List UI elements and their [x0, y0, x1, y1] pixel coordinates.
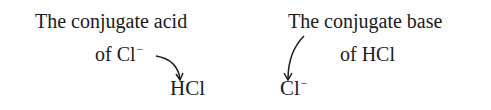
curved-arrow-right-icon [284, 36, 304, 80]
arrows-layer [0, 0, 491, 110]
curved-arrow-left-icon [156, 56, 183, 80]
